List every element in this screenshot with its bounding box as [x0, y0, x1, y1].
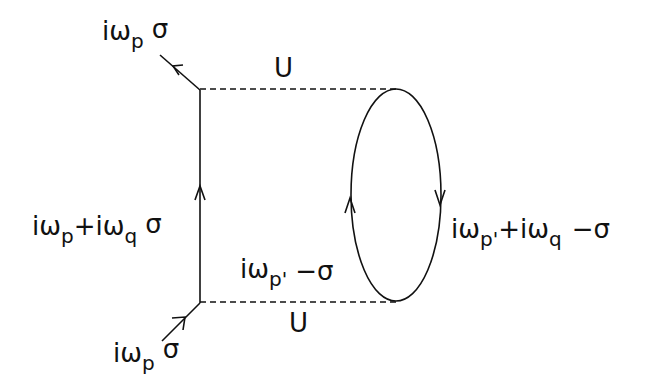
interaction-label-bottom: U [289, 308, 308, 338]
internal-fermion-line [195, 90, 205, 303]
loop-left-label: iωp'−σ [240, 254, 333, 291]
loop-right-label: iωp'+iωq−σ [451, 214, 610, 251]
outgoing-fermion-leg [160, 55, 200, 90]
fermion-loop [345, 89, 445, 301]
feynman-diagram: U U iωpσ iωpσ iωp+iωqσ iωp'−σ iωp'+iωq−σ [0, 0, 659, 391]
incoming-leg-label: iωpσ [113, 334, 179, 375]
internal-propagator-label: iωp+iωqσ [32, 209, 162, 248]
outgoing-leg-label: iωpσ [102, 14, 168, 53]
interaction-label-top: U [274, 53, 293, 83]
arrow-loop-down-icon [435, 190, 445, 205]
arrow-loop-up-icon [345, 198, 355, 213]
